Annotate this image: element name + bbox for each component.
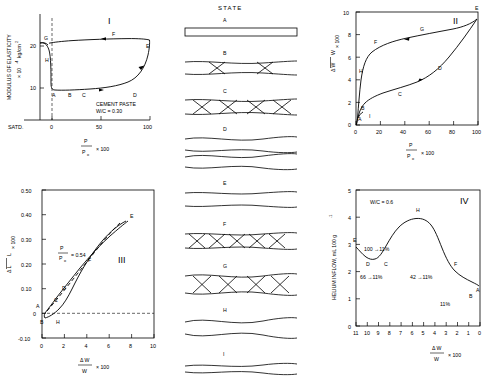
- panel4-xtick-10: 1: [467, 330, 470, 336]
- panel1-label-H: H: [45, 57, 49, 63]
- panel3-xtick-3: 6: [107, 343, 110, 349]
- panel3-ylabel-den: L: [6, 253, 12, 256]
- panel3-ytick-6: -0.10: [18, 336, 30, 342]
- panel4-xtick-5: 6: [410, 330, 413, 336]
- panel2-ytick-1: 8: [348, 32, 351, 38]
- panel2-point-labels: E G F H D C B A I: [358, 5, 479, 122]
- panel4-xtick-6: 5: [422, 330, 425, 336]
- panel3-xtick-5: 10: [150, 343, 156, 349]
- panel1-note-line2: W/C = 0.30: [96, 108, 122, 114]
- panel1-point-labels: G F E H A B C D: [44, 31, 150, 98]
- panel2-tick-labels: 10 8 6 4 2 0 0 20 40 60 80 100: [343, 10, 481, 136]
- state-label-B: B: [223, 50, 227, 56]
- panel3-ylabel: Δ L L × 100: [6, 236, 16, 273]
- panel2-ylabel-suffix: × 100: [334, 35, 340, 48]
- panel4-xlabel-den: W: [434, 356, 439, 362]
- panel4-inline-label-3: 11%: [440, 301, 450, 307]
- state-item-E: E: [185, 180, 297, 207]
- panel4-note: W/C = 0.6: [370, 199, 393, 205]
- panel1-yunit-1: -4: [15, 61, 19, 64]
- panel1-yunit-3: 2: [15, 41, 19, 43]
- panel3-xtick-1: 2: [62, 343, 65, 349]
- panel3-xlabel-den: W: [82, 368, 87, 374]
- state-item-G: G: [185, 263, 297, 295]
- panel2-label-B: B: [361, 105, 365, 111]
- panel3-label-C: C: [54, 297, 58, 303]
- panel2-ylabel-num: Δ W: [330, 62, 336, 72]
- panel3-annotation: P P o = 0.54: [58, 245, 86, 263]
- panel2-ytick-3: 4: [348, 77, 351, 83]
- panel3-ylabel-suffix: × 100: [10, 236, 16, 249]
- panel3-xtick-0: 0: [40, 343, 43, 349]
- panel2-label-I: I: [369, 113, 370, 119]
- panel1-label-C: C: [82, 92, 86, 98]
- state-label-G: G: [223, 263, 227, 269]
- panel4-label-H: H: [416, 207, 420, 213]
- state-item-A: A: [185, 17, 297, 36]
- panel1-ytick-1: 10: [30, 85, 36, 91]
- panel1-ylabel: MODULUS OF ELASTICITY × 10 -4 kg/cm 2: [6, 34, 22, 100]
- panel3-ytick-2: 0.30: [21, 237, 32, 243]
- panel3-ytick-0: 0.50: [21, 188, 32, 194]
- panel4-xlabel: Δ W W × 100: [430, 345, 461, 362]
- panel1-label-D: D: [133, 92, 137, 98]
- panel4-xtick-4: 7: [399, 330, 402, 336]
- panel3-annotation-value: = 0.54: [71, 252, 86, 258]
- panel3-tick-labels: 0.50 0.40 0.30 0.20 0.10 0 -0.10 0 2 4 6…: [18, 188, 156, 350]
- panel4-xtick-9: 2: [456, 330, 459, 336]
- state-column: STATE A B C: [163, 0, 323, 387]
- panel2-ylabel: Δ W W × 100: [330, 35, 340, 72]
- panel4-ytick-2: 3: [348, 242, 351, 248]
- panel3-ticks: [42, 190, 154, 338]
- panel4-inline-labels: 100 →11% 66 →11% 42 →11% 11%: [360, 246, 450, 307]
- panel1-notes: CEMENT PASTE W/C = 0.30: [96, 101, 136, 114]
- panel3-ytick-1: 0.40: [21, 212, 32, 218]
- panel1-xtick-0: 0: [50, 124, 53, 130]
- panel3-annotation-den-sub: o: [64, 259, 66, 263]
- panel4-ylabel-text: HELIUM INFLOW, mL 100 g: [331, 235, 337, 300]
- state-item-F: F: [185, 221, 297, 249]
- panel4-xtick-8: 3: [444, 330, 447, 336]
- panel4-label-C: C: [384, 261, 388, 267]
- panel3-label-H: H: [56, 319, 60, 325]
- state-item-B: B: [185, 50, 297, 75]
- panel2-ytick-0: 10: [343, 10, 349, 16]
- panel4-xtick-1: 10: [364, 330, 370, 336]
- panel1-tick-labels: 20 10 0 50 100 SATD.: [8, 43, 152, 130]
- state-label-F: F: [223, 221, 226, 227]
- panel4-inline-label-0: 100 →11%: [364, 246, 390, 252]
- panel2-xtick-0: 0: [354, 129, 357, 135]
- panel1-xlabel: P P o × 100: [81, 138, 109, 157]
- panel1-xlabel-den-sub: o: [87, 153, 89, 157]
- state-label-E: E: [223, 180, 227, 186]
- panel3-label-F: F: [88, 257, 91, 263]
- panel1-ylabel-text: MODULUS OF ELASTICITY: [6, 34, 12, 100]
- panel2-ticks: [356, 12, 478, 125]
- panel2-label-G: F: [374, 39, 377, 45]
- panel1-label-B: B: [68, 92, 72, 98]
- figure-root: 20 10 0 50 100 SATD. G F E H A B C D I: [0, 0, 491, 387]
- panel4-label-B: B: [469, 293, 473, 299]
- panel2-label-E: E: [475, 5, 479, 11]
- panel2-xlabel-suffix: × 100: [421, 150, 434, 156]
- panel4-xtick-0: 11: [353, 330, 359, 336]
- panel3-roman: III: [118, 255, 126, 265]
- panel1-yunit-2: kg/cm: [16, 44, 22, 58]
- panel4-xtick-3: 8: [388, 330, 391, 336]
- panel3-xtick-2: 4: [85, 343, 88, 349]
- panel1-xtick-satd: SATD.: [8, 124, 23, 130]
- panel2-label-C: C: [398, 91, 402, 97]
- panel3-label-B: B: [40, 319, 44, 325]
- panel2-frame: [356, 12, 478, 125]
- panel4-label-F: F: [454, 261, 457, 267]
- panel1-xtick-2: 100: [143, 124, 152, 130]
- panel4-ytick-0: 5: [348, 188, 351, 194]
- panel1-xlabel-num: P: [84, 138, 88, 144]
- panel2-xtick-5: 100: [472, 129, 481, 135]
- panel4-xlabel-num: Δ W: [432, 345, 442, 351]
- panel4-point-labels: E H D C F B A: [353, 207, 480, 299]
- panel3-xlabel-num: Δ W: [80, 357, 90, 363]
- panel2-label-A: A: [358, 116, 362, 122]
- panel2-label-F: G: [420, 26, 424, 32]
- panel3-label-E: E: [130, 213, 134, 219]
